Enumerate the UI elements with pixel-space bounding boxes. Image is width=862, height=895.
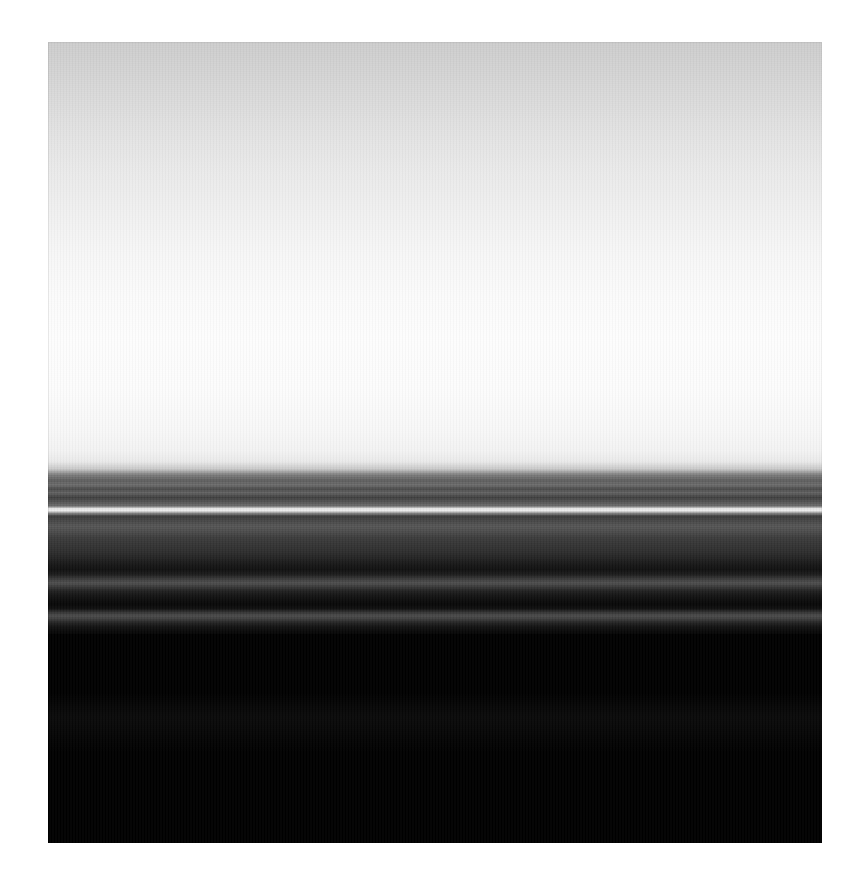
horizon-band-region <box>48 450 822 640</box>
sky-gradient-region <box>48 42 822 454</box>
photograph-plate <box>48 42 822 843</box>
foreground-black-region <box>48 634 822 843</box>
photograph-canvas <box>0 0 862 895</box>
faint-silhouette-detail <box>48 694 822 752</box>
vertical-weave-texture <box>48 42 822 843</box>
horizontal-striation-texture <box>48 42 822 843</box>
